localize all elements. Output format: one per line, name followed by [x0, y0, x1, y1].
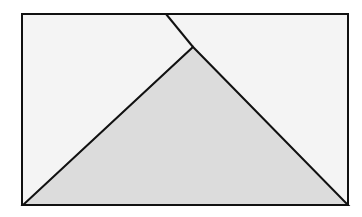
diagram-canvas [0, 0, 362, 217]
